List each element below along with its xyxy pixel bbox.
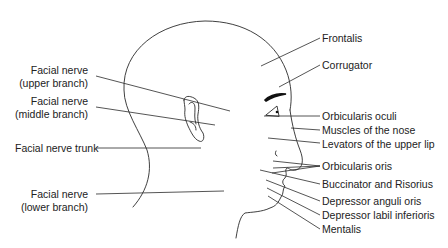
label-facial-nerve-middle: Facial nerve (middle branch) <box>8 95 88 120</box>
label-muscles-nose: Muscles of the nose <box>322 124 415 137</box>
head-outline <box>124 21 291 207</box>
label-buccinator-risorius: Buccinator and Risorius <box>322 178 433 191</box>
face-profile <box>236 110 302 238</box>
label-facial-nerve-lower: Facial nerve (lower branch) <box>8 188 88 213</box>
label-line: (middle branch) <box>8 108 88 121</box>
label-depressor-anguli-oris: Depressor anguli oris <box>322 195 421 208</box>
label-facial-nerve-upper: Facial nerve (upper branch) <box>8 64 88 89</box>
label-line: Facial nerve <box>8 188 88 201</box>
label-line: (lower branch) <box>8 201 88 214</box>
label-depressor-labii-inferioris: Depressor labil inferioris <box>322 209 435 222</box>
label-levators-upper-lip: Levators of the upper lip <box>322 138 435 151</box>
label-orbicularis-oris: Orbicularis oris <box>322 160 392 173</box>
label-orbicularis-oculi: Orbicularis oculi <box>322 110 397 123</box>
label-corrugator: Corrugator <box>322 59 372 72</box>
eyebrow <box>265 94 286 101</box>
label-mentalis: Mentalis <box>322 223 361 236</box>
label-frontalis: Frontalis <box>322 32 362 45</box>
label-line: Facial nerve <box>8 64 88 77</box>
label-facial-nerve-trunk: Facial nerve trunk <box>15 142 98 155</box>
label-line: (upper branch) <box>8 77 88 90</box>
label-line: Facial nerve <box>8 95 88 108</box>
